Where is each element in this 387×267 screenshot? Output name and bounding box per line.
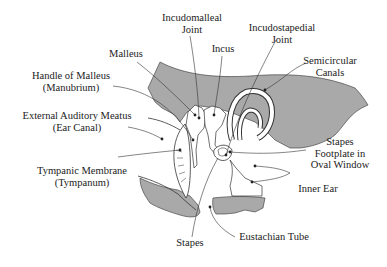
tympanic-membrane-shape xyxy=(174,124,191,198)
label-incudostapedial-joint: Incudostapedial Joint xyxy=(238,22,326,45)
label-malleus: Malleus xyxy=(106,48,146,60)
label-stapes-footplate: Stapes Footplate in Oval Window xyxy=(300,136,380,171)
label-line: Incudomalleal xyxy=(148,12,236,24)
label-line: External Auditory Meatus xyxy=(16,110,138,122)
label-line: Incudostapedial xyxy=(238,22,326,34)
label-incudomalleal-joint: Incudomalleal Joint xyxy=(148,12,236,35)
label-incus: Incus xyxy=(206,43,240,55)
label-handle-of-malleus: Handle of Malleus (Manubrium) xyxy=(24,70,118,93)
temporal-bone-lower-right xyxy=(213,197,265,215)
label-line: (Manubrium) xyxy=(24,82,118,94)
label-line: Tympanic Membrane xyxy=(32,165,132,177)
label-line: Joint xyxy=(238,34,326,46)
label-line: Oval Window xyxy=(300,159,380,171)
cochlea-vestibule xyxy=(230,160,262,196)
ear-canal-upper-wall xyxy=(148,118,180,130)
label-inner-ear: Inner Ear xyxy=(290,183,346,195)
label-line: (Tympanum) xyxy=(32,177,132,189)
label-semicircular-canals: Semicircular Canals xyxy=(292,55,368,78)
label-line: Handle of Malleus xyxy=(24,70,118,82)
label-line: (Ear Canal) xyxy=(16,122,138,134)
label-line: Joint xyxy=(148,24,236,36)
label-line: Incus xyxy=(206,43,240,55)
label-stapes: Stapes xyxy=(170,237,210,249)
ear-anatomy-diagram xyxy=(0,0,387,267)
label-tympanic-membrane: Tympanic Membrane (Tympanum) xyxy=(32,165,132,188)
label-eustachian-tube: Eustachian Tube xyxy=(234,231,314,243)
label-line: Malleus xyxy=(106,48,146,60)
label-line: Eustachian Tube xyxy=(234,231,314,243)
temporal-bone-lower-left xyxy=(140,178,200,217)
label-line: Stapes xyxy=(170,237,210,249)
label-line: Canals xyxy=(292,67,368,79)
label-line: Footplate in xyxy=(300,148,380,160)
label-external-auditory-meatus: External Auditory Meatus (Ear Canal) xyxy=(16,110,138,133)
label-line: Stapes xyxy=(300,136,380,148)
label-line: Inner Ear xyxy=(290,183,346,195)
label-line: Semicircular xyxy=(292,55,368,67)
